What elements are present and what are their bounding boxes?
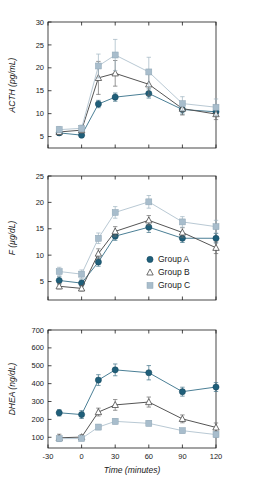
legend-label: Group B	[158, 267, 190, 277]
y-axis-label: F (µg/dL)	[7, 221, 17, 256]
y-tick-label: 15	[36, 86, 44, 95]
series-group-b	[56, 60, 219, 134]
series-line	[59, 370, 216, 415]
panel-bottom: 100200300400500600700DHEA (ng/dL)-300306…	[7, 326, 222, 475]
y-tick-label: 700	[31, 326, 44, 335]
y-tick-label: 20	[36, 198, 44, 207]
x-tick-label: 30	[111, 452, 119, 461]
data-point-circle	[179, 389, 185, 395]
data-point-square	[79, 436, 85, 442]
y-tick-label: 100	[31, 433, 44, 442]
data-point-square	[112, 52, 118, 58]
chart-canvas: 51015202530ACTH (pg/mL)510152025F (µg/dL…	[0, 0, 255, 490]
series-group-b	[56, 397, 219, 441]
y-tick-label: 10	[36, 109, 44, 118]
data-point-square	[95, 63, 101, 69]
y-axis-label: DHEA (ng/dL)	[7, 363, 17, 416]
data-point-circle	[95, 377, 101, 383]
data-point-square	[146, 420, 152, 426]
data-point-square	[213, 432, 219, 438]
legend-label: Group C	[158, 280, 190, 290]
y-tick-label: 600	[31, 343, 44, 352]
data-point-square	[56, 436, 62, 442]
x-axis-label: Time (minutes)	[104, 465, 161, 475]
y-tick-label: 200	[31, 415, 44, 424]
data-point-square	[179, 428, 185, 434]
data-point-square	[112, 418, 118, 424]
data-point-triangle	[146, 217, 152, 223]
plot-frame	[48, 330, 216, 448]
data-point-square	[179, 101, 185, 107]
data-point-circle	[95, 259, 101, 265]
data-point-square	[56, 269, 62, 275]
data-point-square	[95, 424, 101, 430]
data-point-square	[112, 209, 118, 215]
panel-top: 51015202530ACTH (pg/mL)	[7, 18, 219, 148]
data-point-triangle	[95, 409, 101, 415]
data-point-circle	[213, 235, 219, 241]
y-tick-label: 15	[36, 224, 44, 233]
series-line	[59, 402, 216, 438]
series-group-c	[56, 196, 219, 279]
y-tick-label: 25	[36, 41, 44, 50]
y-tick-label: 5	[40, 132, 44, 141]
x-tick-label: 60	[145, 452, 153, 461]
data-point-circle	[112, 367, 118, 373]
legend-marker-triangle	[147, 269, 153, 275]
y-tick-label: 20	[36, 63, 44, 72]
data-point-circle	[95, 101, 101, 107]
data-point-square	[79, 125, 85, 131]
data-point-circle	[146, 370, 152, 376]
data-point-square	[179, 219, 185, 225]
panel-middle: 510152025F (µg/dL)Group AGroup BGroup C	[7, 172, 219, 300]
data-point-square	[213, 224, 219, 230]
data-point-triangle	[146, 399, 152, 405]
data-point-square	[56, 127, 62, 133]
legend-marker-square	[147, 282, 153, 288]
data-point-circle	[213, 384, 219, 390]
legend-marker-circle	[147, 256, 153, 262]
legend: Group AGroup BGroup C	[147, 254, 190, 290]
legend-label: Group A	[158, 254, 190, 264]
data-point-circle	[79, 411, 85, 417]
y-tick-label: 500	[31, 361, 44, 370]
x-tick-label: -30	[43, 452, 54, 461]
data-point-circle	[112, 94, 118, 100]
data-point-square	[213, 104, 219, 110]
data-point-circle	[56, 410, 62, 416]
y-tick-label: 400	[31, 379, 44, 388]
y-tick-label: 25	[36, 172, 44, 181]
data-point-triangle	[213, 244, 219, 250]
x-tick-label: 120	[210, 452, 223, 461]
y-axis-label: ACTH (pg/mL)	[7, 57, 17, 113]
data-point-triangle	[179, 415, 185, 421]
data-point-square	[95, 235, 101, 241]
data-point-square	[79, 271, 85, 277]
x-tick-label: 90	[178, 452, 186, 461]
y-tick-label: 30	[36, 18, 44, 27]
series-line	[59, 55, 216, 130]
y-tick-label: 5	[40, 277, 44, 286]
x-tick-label: 0	[80, 452, 84, 461]
data-point-triangle	[56, 283, 62, 289]
y-tick-label: 10	[36, 251, 44, 260]
figure-panel-stack: 51015202530ACTH (pg/mL)510152025F (µg/dL…	[0, 0, 255, 490]
data-point-square	[146, 199, 152, 205]
series-group-a	[56, 364, 219, 419]
data-point-square	[146, 69, 152, 75]
y-tick-label: 300	[31, 397, 44, 406]
series-group-c	[56, 39, 219, 132]
